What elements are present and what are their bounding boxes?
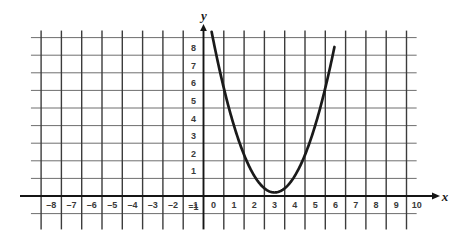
x-tick-label: 5	[313, 200, 318, 210]
y-axis-label: y	[199, 8, 207, 23]
y-tick-label: 2	[191, 149, 196, 159]
x-tick-label: –8	[46, 200, 56, 210]
x-tick-label: 9	[394, 200, 399, 210]
x-tick-label: –2	[168, 200, 178, 210]
y-tick-label: 7	[191, 61, 196, 71]
x-tick-label: –5	[107, 200, 117, 210]
y-tick-label: 8	[191, 43, 196, 53]
x-axis-label: x	[441, 189, 449, 204]
x-tick-label: 1	[231, 200, 236, 210]
x-tick-label: 4	[292, 200, 297, 210]
y-tick-label: 1	[191, 166, 196, 176]
coordinate-plane-chart: –8–7–6–5–4–3–2–1012345678910 –112345678 …	[0, 0, 462, 240]
y-tick-label: 4	[191, 114, 196, 124]
x-tick-label: 3	[272, 200, 277, 210]
x-tick-label: 0	[211, 200, 216, 210]
x-tick-label: 2	[252, 200, 257, 210]
x-tick-label: –6	[87, 200, 97, 210]
x-tick-label: 7	[353, 200, 358, 210]
y-tick-label: 3	[191, 131, 196, 141]
y-tick-label: 5	[191, 96, 196, 106]
x-tick-label: –3	[148, 200, 158, 210]
y-tick-label: 6	[191, 78, 196, 88]
x-tick-label: –7	[67, 200, 77, 210]
x-tick-label: –4	[127, 200, 137, 210]
graph-figure: –8–7–6–5–4–3–2–1012345678910 –112345678 …	[0, 0, 462, 240]
x-tick-label: 10	[412, 200, 422, 210]
x-tick-label: 6	[333, 200, 338, 210]
x-tick-label: 8	[374, 200, 379, 210]
y-tick-label: –1	[188, 202, 198, 212]
